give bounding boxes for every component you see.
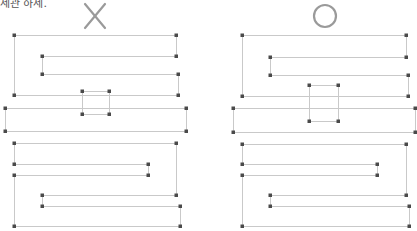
- path-vertex: [241, 143, 245, 147]
- path-vertex: [185, 130, 189, 134]
- path-vertex: [81, 90, 85, 94]
- path-vertex: [376, 174, 380, 178]
- path-vertex: [177, 94, 181, 98]
- path-vertex: [13, 142, 17, 146]
- path-vertex: [147, 174, 151, 178]
- path-vertex: [175, 194, 179, 198]
- path-vertex: [232, 131, 236, 135]
- path-vertex: [4, 130, 8, 134]
- path-vertex: [81, 113, 85, 117]
- path-vertex: [405, 194, 409, 198]
- path-vertex: [41, 73, 45, 77]
- panel-correct: [232, 5, 417, 228]
- path-vertex: [269, 74, 273, 78]
- path-vertex: [408, 205, 412, 209]
- comparison-diagram: [0, 0, 417, 231]
- path-vertex: [179, 205, 183, 209]
- path-vertex: [147, 163, 151, 167]
- path-vertex: [337, 84, 341, 88]
- path-vertex: [41, 205, 45, 209]
- path-vertex: [13, 225, 17, 229]
- path-vertex: [407, 95, 411, 99]
- circle-mark-icon: [314, 5, 336, 27]
- path-points: [4, 34, 189, 229]
- panel-incorrect: [4, 4, 189, 228]
- path-vertex: [241, 163, 245, 167]
- path-vertex: [241, 95, 245, 99]
- path-vertex: [414, 107, 417, 111]
- cross-mark-icon: [85, 4, 105, 28]
- path-vertex: [13, 94, 17, 98]
- path-vertex: [232, 107, 236, 111]
- path-vertex: [175, 55, 179, 59]
- path-vertex: [13, 174, 17, 178]
- path-vertex: [407, 74, 411, 78]
- path-vertex: [269, 194, 273, 198]
- path-vertex: [175, 142, 179, 146]
- path-vertex: [41, 55, 45, 59]
- path-points: [232, 34, 417, 229]
- path-vertex: [405, 143, 409, 147]
- path-vertex: [13, 34, 17, 38]
- path-vertex: [269, 205, 273, 209]
- path-vertex: [408, 225, 412, 229]
- path-vertex: [269, 56, 273, 60]
- path-vertex: [13, 163, 17, 167]
- path-vertex: [175, 34, 179, 38]
- path-vertex: [414, 131, 417, 135]
- path-vertex: [41, 194, 45, 198]
- path-vertex: [179, 225, 183, 229]
- path-vertex: [177, 73, 181, 77]
- path-vertex: [241, 225, 245, 229]
- path-vertex: [337, 120, 341, 124]
- path-vertex: [405, 56, 409, 60]
- path-vertex: [241, 34, 245, 38]
- path-vertex: [4, 107, 8, 111]
- path-vertex: [241, 174, 245, 178]
- path-vertex: [308, 120, 312, 124]
- path-lines: [234, 36, 416, 227]
- path-vertex: [108, 113, 112, 117]
- path-lines: [6, 36, 187, 227]
- path-vertex: [185, 107, 189, 111]
- path-vertex: [308, 84, 312, 88]
- path-vertex: [405, 34, 409, 38]
- path-vertex: [376, 163, 380, 167]
- path-vertex: [108, 90, 112, 94]
